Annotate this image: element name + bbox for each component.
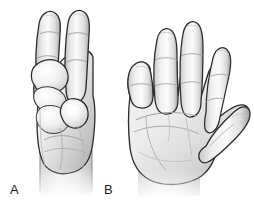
hand-b-middle-finger [180,22,203,117]
hand-a-middle-finger [65,10,89,103]
figure-artwork [0,0,254,204]
hand-b-bottom-fade [130,170,222,200]
hand-b-ring-finger [154,29,178,114]
hand-a-bottom-fade [32,168,98,198]
panel-label-b: B [104,183,113,196]
hand-a-thumb-highlight [46,68,54,74]
panel-label-a: A [10,183,19,196]
hand-a-fingertip-highlight [67,105,80,116]
hand-position-figure: A B [0,0,254,204]
